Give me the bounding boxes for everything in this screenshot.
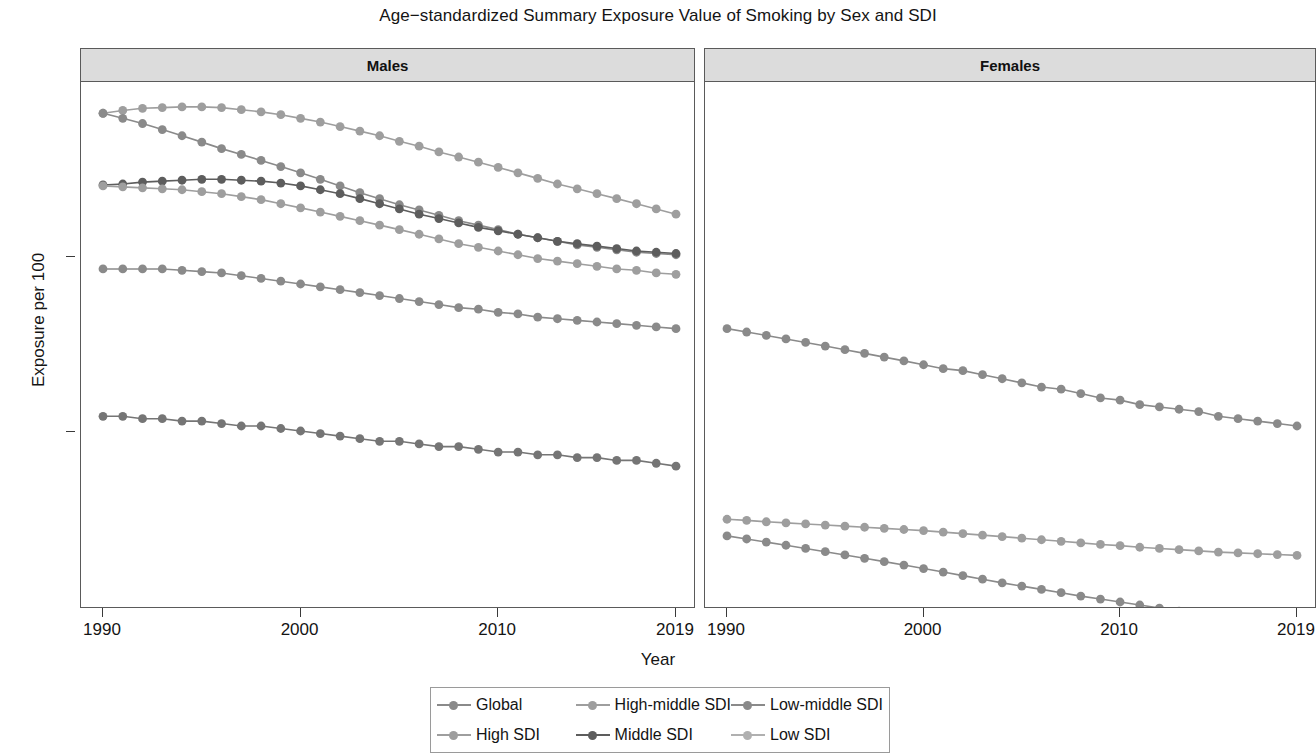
- legend-item-high-middle-sdi[interactable]: High-middle SDI: [576, 696, 731, 714]
- y-tick-mark-20: [66, 256, 75, 257]
- data-point: [652, 323, 661, 332]
- data-point: [958, 571, 967, 580]
- data-point: [860, 554, 869, 563]
- data-point: [593, 242, 602, 251]
- data-point: [1155, 403, 1164, 412]
- data-point: [1175, 405, 1184, 414]
- legend-key-icon: [576, 699, 610, 711]
- series-low-middle-sdi: [99, 265, 681, 333]
- data-point: [762, 331, 771, 340]
- legend-item-high-sdi[interactable]: High SDI: [437, 726, 576, 744]
- panel-females: Females: [704, 48, 1316, 608]
- data-point: [1194, 546, 1203, 555]
- legend-key-icon: [731, 699, 765, 711]
- data-point: [978, 370, 987, 379]
- data-point: [118, 114, 127, 123]
- data-point: [860, 523, 869, 532]
- data-point: [316, 118, 325, 127]
- data-point: [939, 568, 948, 577]
- data-point: [316, 185, 325, 194]
- panel-strip-males: Males: [81, 49, 694, 82]
- series-middle-sdi: [99, 175, 681, 258]
- data-point: [1214, 548, 1223, 557]
- data-point: [494, 226, 503, 235]
- data-point: [742, 516, 751, 525]
- data-point: [514, 448, 523, 457]
- x-tick-mark-2010-females: [1119, 608, 1120, 617]
- data-point: [197, 267, 206, 276]
- data-point: [841, 522, 850, 531]
- x-tick-mark-1990-females: [726, 608, 727, 617]
- data-point: [118, 182, 127, 191]
- data-point: [553, 257, 562, 266]
- legend-item-low-sdi[interactable]: Low SDI: [731, 726, 883, 744]
- y-axis-label: Exposure per 100: [29, 195, 49, 445]
- x-tick-mark-2000-males: [300, 608, 301, 617]
- x-tick-mark-2000-females: [923, 608, 924, 617]
- data-point: [1096, 595, 1105, 604]
- data-point: [435, 148, 444, 157]
- data-point: [474, 305, 483, 314]
- data-point: [118, 265, 127, 274]
- data-point: [296, 182, 305, 191]
- data-point: [612, 244, 621, 253]
- data-point: [1057, 588, 1066, 597]
- data-point: [672, 270, 681, 279]
- data-point: [1194, 407, 1203, 416]
- data-point: [1135, 400, 1144, 409]
- legend-item-global[interactable]: Global: [437, 696, 576, 714]
- data-point: [1076, 538, 1085, 547]
- data-point: [158, 103, 167, 112]
- data-point: [612, 265, 621, 274]
- data-point: [237, 150, 246, 159]
- data-point: [1155, 544, 1164, 553]
- data-point: [178, 176, 187, 185]
- data-point: [742, 328, 751, 337]
- data-point: [138, 414, 147, 423]
- data-point: [514, 310, 523, 319]
- data-point: [553, 314, 562, 323]
- data-point: [296, 280, 305, 289]
- data-point: [1116, 396, 1125, 405]
- data-point: [296, 168, 305, 177]
- data-point: [395, 205, 404, 214]
- data-point: [237, 271, 246, 280]
- data-point: [900, 561, 909, 570]
- x-axis-label: Year: [0, 650, 1316, 670]
- data-point: [1214, 412, 1223, 421]
- data-point: [514, 250, 523, 259]
- series-line: [103, 107, 676, 214]
- data-point: [652, 269, 661, 278]
- data-point: [553, 450, 562, 459]
- series-high-sdi: [723, 324, 1302, 430]
- data-point: [652, 205, 661, 214]
- series-line: [727, 536, 1297, 607]
- data-point: [99, 109, 108, 118]
- data-point: [355, 194, 364, 203]
- data-point: [316, 175, 325, 184]
- data-point: [375, 291, 384, 300]
- data-point: [782, 335, 791, 344]
- data-point: [158, 177, 167, 186]
- data-point: [1253, 549, 1262, 558]
- data-point: [958, 529, 967, 538]
- data-point: [454, 239, 463, 248]
- legend-item-low-middle-sdi[interactable]: Low-middle SDI: [731, 696, 883, 714]
- data-point: [978, 531, 987, 540]
- data-point: [296, 114, 305, 123]
- data-point: [762, 538, 771, 547]
- data-point: [138, 265, 147, 274]
- data-point: [1037, 535, 1046, 544]
- legend-item-middle-sdi[interactable]: Middle SDI: [576, 726, 731, 744]
- chart-title: Age−standardized Summary Exposure Value …: [0, 6, 1316, 26]
- data-point: [553, 237, 562, 246]
- data-point: [197, 417, 206, 426]
- data-point: [1253, 417, 1262, 426]
- data-point: [723, 532, 732, 541]
- data-point: [632, 199, 641, 208]
- data-point: [474, 445, 483, 454]
- data-point: [880, 557, 889, 566]
- series-line: [103, 113, 676, 254]
- data-point: [1135, 543, 1144, 552]
- data-point: [237, 422, 246, 431]
